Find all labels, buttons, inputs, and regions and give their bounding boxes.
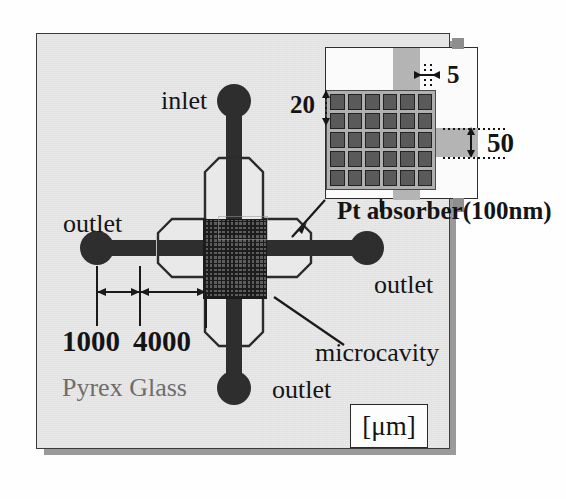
inset-dim-5-arrow-left [414, 71, 422, 79]
absorber-cell [418, 113, 433, 129]
absorber-cell [365, 151, 380, 167]
absorber-cell [330, 132, 345, 148]
absorber-cell [348, 113, 363, 129]
leader-lines [0, 0, 566, 499]
absorber-cell [330, 94, 345, 110]
label-pyrex-glass: Pyrex Glass [62, 375, 187, 401]
unit-badge: [μm] [350, 404, 428, 448]
absorber-cell [383, 113, 398, 129]
inset-dim-20-arrow-up [322, 90, 330, 98]
figure-canvas: 1000 4000 20 5 50 inlet outlet outlet ou… [0, 0, 566, 499]
inset-dim-5-tick-left [424, 64, 426, 86]
absorber-cell [365, 94, 380, 110]
unit-label: [μm] [362, 413, 415, 440]
absorber-cell [418, 94, 433, 110]
absorber-cell [330, 113, 345, 129]
inset-dim-label-50: 50 [487, 130, 514, 157]
absorber-cell [418, 151, 433, 167]
absorber-cell [365, 132, 380, 148]
absorber-cell [400, 113, 415, 129]
absorber-cell [365, 113, 380, 129]
inset-dim-20-arrow-down [322, 118, 330, 126]
absorber-cell [400, 94, 415, 110]
inset-dim-label-20: 20 [290, 92, 315, 117]
absorber-cell [383, 151, 398, 167]
label-inlet: inlet [161, 88, 207, 114]
label-outlet-bottom: outlet [272, 377, 331, 403]
absorber-cell [348, 151, 363, 167]
pt-absorber-array [326, 90, 436, 190]
inset-dim-5-arrow-right [432, 71, 440, 79]
absorber-cell [383, 170, 398, 186]
label-pt-absorber: Pt absorber(100nm) [337, 198, 552, 223]
absorber-cell [400, 170, 415, 186]
inset-dim-label-5: 5 [447, 62, 460, 87]
absorber-cell [400, 132, 415, 148]
absorber-cell [330, 151, 345, 167]
absorber-cell [418, 170, 433, 186]
label-outlet-right: outlet [374, 272, 433, 298]
absorber-cell [348, 132, 363, 148]
absorber-cell [330, 170, 345, 186]
label-outlet-left: outlet [63, 211, 122, 237]
inset-dim-50-arrow-down [467, 150, 475, 158]
absorber-cell [348, 170, 363, 186]
inset-dim-50-arrow-up [467, 127, 475, 135]
absorber-cell [400, 151, 415, 167]
absorber-cell [383, 132, 398, 148]
label-microcavity: microcavity [315, 340, 439, 366]
absorber-cell [348, 94, 363, 110]
absorber-cell [383, 94, 398, 110]
absorber-cell [365, 170, 380, 186]
inset-top-tab [452, 38, 464, 49]
absorber-cell [418, 132, 433, 148]
